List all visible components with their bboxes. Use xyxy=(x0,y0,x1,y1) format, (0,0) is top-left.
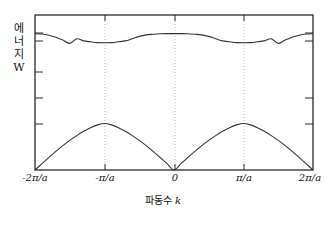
x-axis-title-symbol: k xyxy=(175,195,181,206)
bottom-axis-ticks xyxy=(105,164,244,170)
energy-band-figure: 에 너 지 W xyxy=(0,0,327,226)
left-axis-ticks xyxy=(35,33,43,124)
xtick-label-minus-2pi-a: -2π/a xyxy=(22,172,48,183)
x-axis-title: 파동수 k xyxy=(145,192,181,207)
upper-band-curve xyxy=(35,34,313,44)
xtick-label-pi-a: π/a xyxy=(236,172,252,183)
grid-lines xyxy=(105,15,244,170)
lower-band-curve xyxy=(35,124,313,171)
x-axis-title-text: 파동수 xyxy=(145,195,175,206)
top-axis-ticks xyxy=(105,15,244,21)
xtick-label-zero: 0 xyxy=(172,172,178,183)
right-axis-ticks xyxy=(305,33,313,124)
xtick-label-minus-pi-a: -π/a xyxy=(95,172,114,183)
xtick-label-2pi-a: 2π/a xyxy=(299,172,321,183)
